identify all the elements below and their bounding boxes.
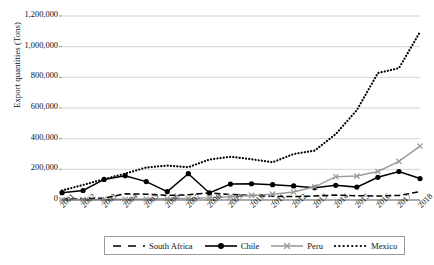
- legend-label: South Africa: [149, 241, 193, 251]
- x-axis-tick-label: 2001: [59, 192, 76, 209]
- x-axis-tick-label: 2011: [270, 193, 287, 210]
- x-axis-tick-label: 2015: [354, 192, 371, 209]
- legend-item-south-africa[interactable]: South Africa: [112, 241, 193, 251]
- x-axis-tick-label: 2005: [143, 192, 160, 209]
- legend-item-chile[interactable]: Chile: [204, 241, 260, 251]
- legend-label: Mexico: [371, 241, 397, 251]
- x-axis-tick-label: 2003: [101, 192, 118, 209]
- legend-label: Chile: [241, 241, 260, 251]
- legend-item-mexico[interactable]: Mexico: [334, 241, 397, 251]
- legend-swatch-icon: [334, 241, 368, 251]
- legend-swatch-icon: [204, 241, 238, 251]
- x-axis-tick-label: 2006: [164, 192, 181, 209]
- x-axis-tick-label: 2016: [375, 192, 392, 209]
- x-axis-tick-label: 2002: [80, 192, 97, 209]
- x-axis-tick-label: 2017: [396, 192, 413, 209]
- x-axis-tick-label: 2018: [417, 192, 434, 209]
- legend-swatch-icon: [112, 241, 146, 251]
- legend-item-peru[interactable]: Peru: [270, 241, 323, 251]
- x-axis-tick-label: 2009: [227, 192, 244, 209]
- x-axis-tick-label: 2007: [185, 192, 202, 209]
- x-axis-tick-label: 2012: [291, 192, 308, 209]
- legend-label: Peru: [307, 241, 323, 251]
- chart-legend: South AfricaChilePeruMexico: [104, 236, 405, 255]
- legend-swatch-icon: [270, 241, 304, 251]
- x-axis-tick-label: 2013: [312, 192, 329, 209]
- x-axis-tick-label: 2004: [122, 192, 139, 209]
- x-axis-tick-label: 2008: [206, 192, 223, 209]
- x-axis-tick-label: 2014: [333, 192, 350, 209]
- x-axis-tick-label: 2010: [249, 192, 266, 209]
